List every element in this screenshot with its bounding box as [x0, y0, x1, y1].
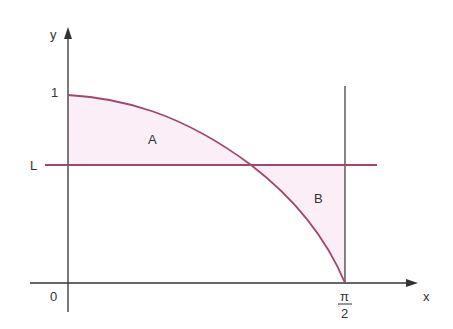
region-a-fill — [68, 95, 251, 165]
region-a-label: A — [148, 132, 157, 147]
x-tick-pi-denominator: 2 — [341, 306, 348, 321]
y-tick-L: L — [30, 158, 37, 173]
y-tick-1: 1 — [51, 85, 58, 100]
y-axis-arrow-icon — [64, 27, 72, 39]
diagram-canvas: y 1 L 0 A B π 2 x — [0, 0, 453, 329]
region-b-fill — [251, 165, 345, 283]
origin-label: 0 — [50, 289, 57, 304]
y-axis-label: y — [50, 27, 57, 42]
x-axis-arrow-icon — [406, 279, 418, 287]
region-b-label: B — [314, 191, 323, 206]
x-axis-label: x — [423, 289, 430, 304]
x-tick-pi-numerator: π — [340, 289, 349, 304]
